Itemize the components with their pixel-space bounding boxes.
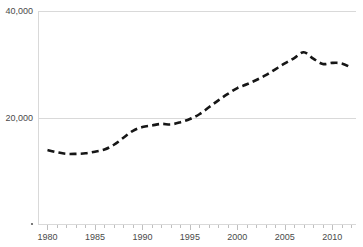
x-axis-tick-label: 2010: [322, 232, 342, 242]
y-axis-labels: 20,00040,000: [5, 6, 33, 123]
x-axis-tick-label: 2005: [275, 232, 295, 242]
line-chart: 20,00040,000 198019851990199520002005201…: [0, 0, 363, 247]
x-axis-tick-label: 2000: [227, 232, 247, 242]
x-axis-tick-marks: [48, 225, 352, 230]
data-series-line: [47, 52, 351, 154]
y-axis-tick-label: 40,000: [5, 6, 33, 16]
gridlines: [38, 12, 356, 119]
x-axis-tick-label: 1980: [37, 232, 57, 242]
x-axis-tick-label: 1985: [85, 232, 105, 242]
x-axis-tick-label: 1990: [132, 232, 152, 242]
x-axis-tick-label: 1995: [180, 232, 200, 242]
origin-marker-dot: [31, 223, 33, 225]
chart-canvas: 20,00040,000 198019851990199520002005201…: [0, 0, 363, 247]
y-axis-tick-label: 20,000: [5, 113, 33, 123]
x-axis-labels: 1980198519901995200020052010: [37, 232, 342, 242]
